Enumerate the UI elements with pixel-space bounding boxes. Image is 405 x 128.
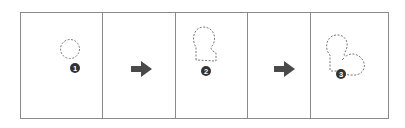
svg-text:1: 1 bbox=[73, 64, 77, 73]
svg-text:2: 2 bbox=[204, 67, 208, 76]
step-2-badge: 2 bbox=[201, 66, 211, 76]
arrow-right-icon bbox=[131, 61, 152, 77]
diagram-canvas: 1 2 3 bbox=[0, 0, 405, 128]
step-2-shape bbox=[194, 27, 216, 61]
arrow-right-icon bbox=[274, 61, 295, 77]
step-3-shape bbox=[327, 35, 365, 75]
step-3-badge: 3 bbox=[336, 69, 346, 79]
svg-text:3: 3 bbox=[339, 70, 343, 79]
step-1-shape bbox=[61, 40, 80, 59]
step-1-badge: 1 bbox=[70, 63, 80, 73]
